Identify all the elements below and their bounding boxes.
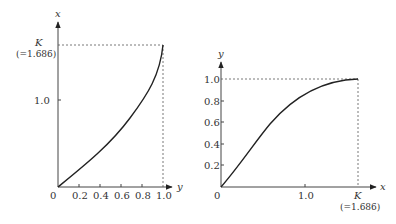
right-xtick-1.0: 1.0: [298, 190, 314, 201]
left-horizontal-axis-label: y: [176, 181, 183, 192]
right-ytick-1.0: 1.0: [204, 74, 220, 85]
left-xtick-0.6: 0.6: [114, 190, 130, 201]
figure: x y 1.0 K (=1.686) 0 0.2 0.4 0.6 0.8 1.0…: [0, 0, 396, 224]
left-k-label: K: [34, 37, 43, 48]
left-xtick-1.0: 1.0: [156, 190, 172, 201]
left-chart: x y 1.0 K (=1.686) 0 0.2 0.4 0.6 0.8 1.0: [16, 8, 183, 201]
right-chart: y x 1.0 0.8 0.6 0.4 0.2 0 1.0 K (=1.686): [204, 48, 386, 212]
right-k-value: (=1.686): [340, 202, 380, 212]
left-curve: [58, 45, 163, 187]
right-vertical-axis-label: y: [217, 48, 224, 59]
right-ytick-0.2: 0.2: [204, 160, 220, 171]
right-ytick-0.6: 0.6: [204, 117, 220, 128]
left-vertical-axis-label: x: [55, 8, 61, 19]
right-ytick-0.4: 0.4: [204, 139, 220, 150]
left-tick-1.0: 1.0: [34, 95, 50, 106]
left-origin: 0: [50, 190, 56, 201]
right-ytick-0.8: 0.8: [204, 96, 220, 107]
right-k-label: K: [353, 190, 362, 201]
right-origin: 0: [214, 190, 220, 201]
right-horizontal-axis-label: x: [380, 181, 386, 192]
left-xtick-0.8: 0.8: [135, 190, 151, 201]
left-k-value: (=1.686): [16, 49, 56, 59]
right-curve: [221, 79, 358, 187]
left-xtick-0.2: 0.2: [72, 190, 88, 201]
left-xtick-0.4: 0.4: [93, 190, 109, 201]
